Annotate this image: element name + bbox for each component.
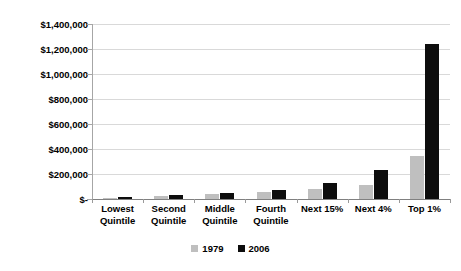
y-axis-tick <box>87 124 92 125</box>
x-axis-category-label-line: Next 15% <box>297 203 348 215</box>
bar-1979-top-1- <box>410 156 424 199</box>
bar-2006-middle-quintile <box>220 193 234 200</box>
x-axis-category-label-line: Quintile <box>194 215 245 227</box>
bar-chart: $-$200,000$400,000$600,000$800,000$1,000… <box>0 0 461 271</box>
bar-1979-next-15- <box>308 189 322 199</box>
bar-1979-middle-quintile <box>205 194 219 199</box>
legend-item-1979: 1979 <box>191 243 223 254</box>
x-axis-tick <box>450 199 451 203</box>
bar-2006-top-1- <box>425 44 439 199</box>
x-axis-category-label-line: Lowest <box>92 203 143 215</box>
x-axis-category-label: SecondQuintile <box>143 203 194 226</box>
x-axis-category-label-line: Quintile <box>92 215 143 227</box>
y-axis-labels: $-$200,000$400,000$600,000$800,000$1,000… <box>0 0 88 271</box>
bar-2006-next-4- <box>374 170 388 199</box>
y-axis-tick-label: $- <box>4 194 88 205</box>
y-axis-tick-label: $1,200,000 <box>4 44 88 55</box>
x-axis-category-label-line: Next 4% <box>348 203 399 215</box>
x-axis-category-label: Next 4% <box>348 203 399 215</box>
x-axis-line <box>92 199 450 200</box>
x-axis-category-label-line: Second <box>143 203 194 215</box>
y-axis-tick-label: $400,000 <box>4 144 88 155</box>
x-axis-category-label-line: Middle <box>194 203 245 215</box>
x-axis-category-label: Top 1% <box>399 203 450 215</box>
y-axis-line <box>92 24 93 199</box>
bar-1979-second-quintile <box>154 196 168 200</box>
bar-2006-next-15- <box>323 183 337 199</box>
x-axis-category-label-line: Top 1% <box>399 203 450 215</box>
bar-2006-fourth-quintile <box>272 190 286 199</box>
legend-label-2006: 2006 <box>249 243 270 254</box>
y-axis-tick-label: $1,400,000 <box>4 19 88 30</box>
gridline <box>92 174 450 175</box>
bar-2006-second-quintile <box>169 195 183 200</box>
gridline <box>92 24 450 25</box>
x-axis-category-label: LowestQuintile <box>92 203 143 226</box>
legend-item-2006: 2006 <box>238 243 270 254</box>
x-axis-category-label-line: Fourth <box>245 203 296 215</box>
legend-swatch-2006 <box>238 245 245 252</box>
y-axis-tick-label: $600,000 <box>4 119 88 130</box>
legend-label-1979: 1979 <box>202 243 223 254</box>
y-axis-tick-label: $200,000 <box>4 169 88 180</box>
bar-1979-lowest-quintile <box>103 198 117 199</box>
gridline <box>92 74 450 75</box>
gridline <box>92 99 450 100</box>
gridline <box>92 124 450 125</box>
bar-2006-lowest-quintile <box>118 197 132 199</box>
plot-area <box>92 24 450 199</box>
y-axis-tick-label: $1,000,000 <box>4 69 88 80</box>
chart-legend: 1979 2006 <box>0 243 461 254</box>
y-axis-tick <box>87 49 92 50</box>
y-axis-tick <box>87 99 92 100</box>
y-axis-tick <box>87 24 92 25</box>
x-axis-category-label: MiddleQuintile <box>194 203 245 226</box>
legend-swatch-1979 <box>191 245 198 252</box>
x-axis-category-label: Next 15% <box>297 203 348 215</box>
y-axis-tick-label: $800,000 <box>4 94 88 105</box>
gridline <box>92 149 450 150</box>
y-axis-tick <box>87 174 92 175</box>
x-axis-category-label-line: Quintile <box>245 215 296 227</box>
y-axis-tick <box>87 149 92 150</box>
bar-1979-fourth-quintile <box>257 192 271 199</box>
y-axis-tick <box>87 74 92 75</box>
x-axis-category-label-line: Quintile <box>143 215 194 227</box>
gridline <box>92 49 450 50</box>
x-axis-category-label: FourthQuintile <box>245 203 296 226</box>
bar-1979-next-4- <box>359 185 373 199</box>
